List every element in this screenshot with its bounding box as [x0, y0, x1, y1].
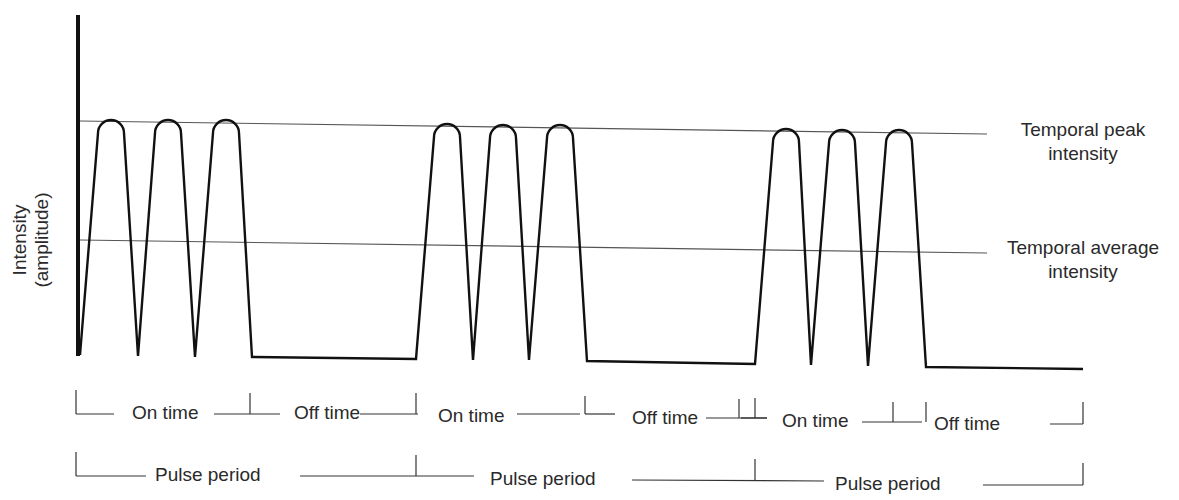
pulse-period-label-1: Pulse period	[155, 464, 261, 487]
y-axis-label-line1: Intensity	[9, 192, 31, 287]
timing-row-brackets	[76, 390, 1083, 424]
off-time-label-1: Off time	[294, 402, 360, 425]
on-time-label-2: On time	[438, 405, 505, 428]
average-label-line1: Temporal average	[990, 236, 1176, 260]
peak-label-line2: intensity	[998, 142, 1168, 166]
pulse-waveform	[80, 120, 1083, 369]
peak-label-line1: Temporal peak	[998, 118, 1168, 142]
on-time-label-3: On time	[782, 410, 849, 433]
off-time-label-3: Off time	[934, 413, 1000, 436]
off-time-label-2: Off time	[632, 407, 698, 430]
temporal-average-label: Temporal average intensity	[990, 236, 1176, 284]
on-time-label-1: On time	[132, 402, 199, 425]
y-axis-label-line2: (amplitude)	[31, 192, 53, 287]
temporal-average-line	[80, 240, 987, 253]
pulse-period-label-3: Pulse period	[835, 473, 941, 496]
temporal-peak-label: Temporal peak intensity	[998, 118, 1168, 166]
average-label-line2: intensity	[990, 260, 1176, 284]
pulse-period-label-2: Pulse period	[490, 468, 596, 491]
